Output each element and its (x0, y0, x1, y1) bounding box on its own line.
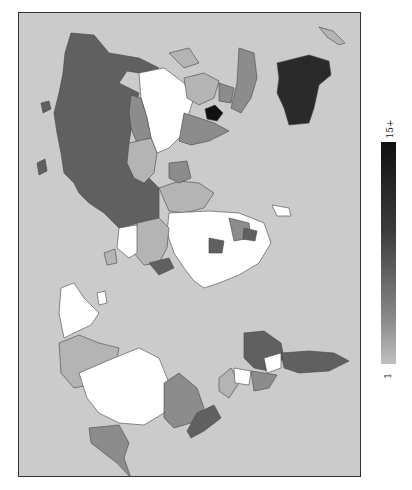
region-arctic-islands-2 (37, 159, 47, 175)
colorbar (381, 142, 396, 364)
region-madagascar (272, 205, 291, 216)
world-choropleth-map (19, 13, 361, 477)
region-iran (169, 161, 191, 183)
region-alaska (89, 425, 131, 477)
region-greenland (59, 283, 99, 338)
region-africa-dark (209, 238, 224, 253)
region-peru (251, 371, 277, 391)
region-arctic-islands (41, 101, 51, 113)
region-indonesia-2 (219, 83, 234, 103)
region-south-america-white-2 (234, 368, 251, 385)
region-arabia (159, 181, 214, 213)
region-indonesia (231, 48, 257, 113)
region-argentina (281, 351, 349, 373)
colorbar-min-label: 1 (383, 373, 393, 379)
region-dark-spot (205, 105, 223, 121)
region-europe-west (117, 225, 137, 258)
region-australia (277, 55, 331, 125)
colorbar-max-label: 15+ (385, 120, 395, 139)
region-india (179, 113, 229, 145)
region-new-zealand (319, 27, 345, 45)
region-japan (169, 48, 199, 68)
map-frame (18, 12, 361, 477)
region-europe (134, 218, 169, 265)
region-iceland (97, 291, 107, 305)
region-uk (104, 249, 117, 265)
